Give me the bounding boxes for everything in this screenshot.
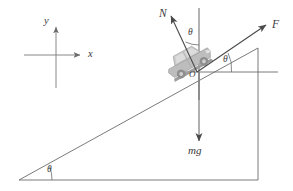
normal-force-label: N [159,8,167,20]
axis-y-label: y [44,16,49,27]
angle-normal-label: θ [188,28,193,38]
incline-triangle [19,48,258,180]
origin-label: O [189,70,196,79]
physics-diagram-inclined-plane: y x N F mg O θ θ θ [0,0,293,191]
force-vectors [171,16,266,141]
diagram-canvas [0,0,293,191]
applied-force-label: F [272,19,279,31]
angle-arc-normal [186,42,200,45]
angle-incline-label: θ [47,165,52,175]
axis-x-label: x [88,49,93,60]
weight-force-label: mg [188,145,201,156]
angle-arc-force [228,53,232,72]
coordinate-axes [24,27,80,88]
angle-force-label: θ [223,55,228,65]
incline-hypotenuse [19,48,258,180]
